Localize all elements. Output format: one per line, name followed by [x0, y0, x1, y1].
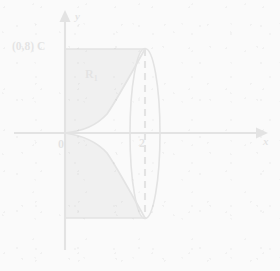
figure-plate: (0,8) C R1 0 2 x y [0, 0, 280, 271]
x-axis-tick-label-2: 2 [139, 137, 145, 149]
x-axis-label: x [263, 136, 269, 147]
region-r1-label: R1 [85, 68, 98, 83]
y-axis-label: y [75, 11, 80, 22]
region-r1-subscript: 1 [94, 74, 98, 83]
y-axis-arrow-icon [60, 10, 71, 22]
point-c-label: (0,8) C [12, 41, 45, 53]
region-r1-letter: R [85, 67, 94, 81]
origin-label: 0 [58, 138, 64, 150]
